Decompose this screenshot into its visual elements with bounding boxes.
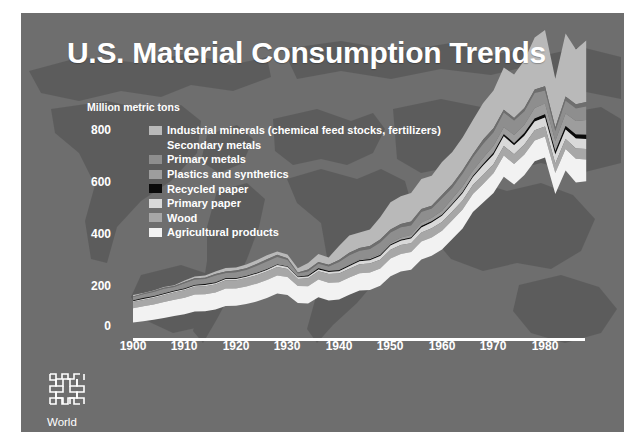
legend-item-recycled-paper: Recycled paper [149, 181, 441, 196]
legend-label-recycled-paper: Recycled paper [167, 183, 248, 195]
legend-label-primary-paper: Primary paper [167, 197, 241, 209]
brand-name: World Resources Institute [47, 416, 102, 432]
legend-item-agricultural-products: Agricultural products [149, 225, 441, 240]
brand-line-2: Resources [47, 430, 102, 433]
legend-swatch-primary-paper [149, 199, 162, 208]
legend-swatch-primary-metals [149, 155, 162, 164]
legend-label-secondary-metals: Secondary metals [167, 139, 261, 151]
legend-label-wood: Wood [167, 212, 197, 224]
chart-figure: U.S. Material Consumption Trends Million… [0, 0, 644, 446]
y-tick-200: 200 [65, 279, 111, 293]
x-tick-1980: 1980 [515, 339, 575, 353]
legend-swatch-agricultural-products [149, 228, 162, 237]
legend-label-agricultural-products: Agricultural products [167, 226, 279, 238]
legend-label-industrial-minerals: Industrial minerals (chemical feed stock… [167, 124, 441, 136]
legend-item-plastics-and-synthetics: Plastics and synthetics [149, 167, 441, 182]
legend-item-primary-paper: Primary paper [149, 196, 441, 211]
chart-legend: Industrial minerals (chemical feed stock… [149, 123, 441, 240]
legend-item-primary-metals: Primary metals [149, 152, 441, 167]
legend-swatch-industrial-minerals [149, 126, 162, 135]
x-tick-1910: 1910 [154, 339, 214, 353]
legend-item-secondary-metals: Secondary metals [149, 138, 441, 153]
y-tick-600: 600 [65, 175, 111, 189]
y-tick-400: 400 [65, 227, 111, 241]
x-tick-1970: 1970 [463, 339, 523, 353]
page-title: U.S. Material Consumption Trends [67, 36, 546, 70]
legend-item-wood: Wood [149, 211, 441, 226]
legend-swatch-wood [149, 213, 162, 222]
legend-swatch-plastics-and-synthetics [149, 170, 162, 179]
legend-label-primary-metals: Primary metals [167, 153, 246, 165]
y-axis-unit-label: Million metric tons [87, 101, 180, 113]
wri-weave-logo-icon [47, 370, 87, 408]
legend-swatch-recycled-paper [149, 184, 162, 193]
legend-item-industrial-minerals: Industrial minerals (chemical feed stock… [149, 123, 441, 138]
legend-label-plastics-and-synthetics: Plastics and synthetics [167, 168, 289, 180]
y-tick-0: 0 [65, 319, 111, 333]
brand-logo: World Resources Institute [47, 370, 102, 432]
x-tick-1930: 1930 [257, 339, 317, 353]
x-tick-1950: 1950 [360, 339, 420, 353]
brand-line-1: World [47, 416, 102, 430]
chart-panel: U.S. Material Consumption Trends Million… [21, 13, 624, 432]
y-tick-800: 800 [65, 123, 111, 137]
legend-swatch-secondary-metals [149, 140, 162, 149]
